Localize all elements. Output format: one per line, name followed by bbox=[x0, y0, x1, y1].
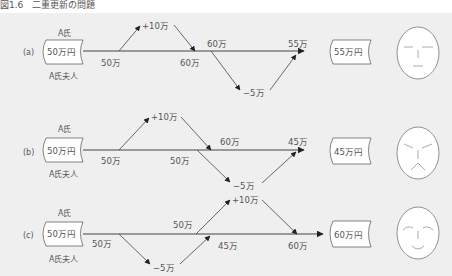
lower-result-value: 55万 bbox=[288, 39, 308, 49]
upper-up-arrow bbox=[119, 118, 149, 150]
start-box-value: 50万円 bbox=[47, 146, 76, 156]
row-label: (b) bbox=[23, 148, 34, 157]
row-label: (a) bbox=[23, 48, 34, 57]
upper-start-value: 50万 bbox=[173, 220, 193, 230]
upper-delta-value: +10万 bbox=[151, 112, 178, 122]
row-b: (b) A氏 A氏夫人 50万円 50万 +10万 60万 50万 −5万 45… bbox=[23, 112, 439, 191]
row-c: (c) A氏 A氏夫人 50万円 50万 −5万 45万 50万 +10万 60… bbox=[23, 195, 439, 273]
lower-delta-value: −5万 bbox=[153, 263, 175, 273]
upper-result-value: 60万 bbox=[220, 137, 240, 147]
owner-bottom-label: A氏夫人 bbox=[49, 169, 78, 179]
owner-top-label: A氏 bbox=[58, 29, 71, 38]
start-box-value: 50万円 bbox=[47, 229, 76, 239]
upper-up-arrow bbox=[196, 200, 230, 234]
lower-result-value: 45万 bbox=[288, 137, 308, 147]
upper-up-arrow bbox=[119, 26, 140, 51]
angry-face-icon bbox=[397, 127, 439, 179]
upper-start-value: 50万 bbox=[101, 156, 121, 166]
upper-result-value: 60万 bbox=[180, 58, 200, 68]
end-box-value: 60万円 bbox=[334, 230, 363, 240]
lower-up-arrow bbox=[262, 152, 296, 183]
owner-bottom-label: A氏夫人 bbox=[49, 254, 78, 264]
double-update-diagram: (a) A氏 A氏夫人 50万円 50万 +10万 60万 60万 −5万 55… bbox=[0, 0, 452, 276]
lower-down-arrow bbox=[197, 150, 230, 182]
upper-down-arrow bbox=[181, 117, 211, 150]
neutral-face-icon bbox=[397, 27, 439, 79]
upper-result-value: 60万 bbox=[288, 241, 308, 251]
lower-start-value: 50万 bbox=[170, 156, 190, 166]
lower-delta-value: −5万 bbox=[243, 88, 265, 98]
start-box-value: 50万円 bbox=[47, 47, 76, 57]
upper-down-arrow bbox=[174, 25, 195, 51]
owner-top-label: A氏 bbox=[58, 125, 71, 134]
lower-start-value: 50万 bbox=[92, 239, 112, 249]
lower-down-arrow bbox=[119, 234, 150, 264]
owner-bottom-label: A氏夫人 bbox=[49, 71, 78, 81]
upper-down-arrow bbox=[262, 200, 297, 234]
row-a: (a) A氏 A氏夫人 50万円 50万 +10万 60万 60万 −5万 55… bbox=[23, 21, 439, 98]
end-box-value: 45万円 bbox=[334, 147, 363, 157]
lower-result-value: 45万 bbox=[218, 241, 238, 251]
upper-start-value: 50万 bbox=[101, 58, 121, 68]
lower-up-arrow bbox=[270, 55, 296, 90]
row-label: (c) bbox=[23, 231, 34, 240]
end-box-value: 55万円 bbox=[334, 47, 363, 57]
lower-delta-value: −5万 bbox=[233, 181, 255, 191]
upper-delta-value: +10万 bbox=[142, 21, 169, 31]
upper-delta-value: +10万 bbox=[232, 195, 259, 205]
lower-down-arrow bbox=[211, 51, 240, 90]
lower-start-value: 60万 bbox=[207, 39, 227, 49]
owner-top-label: A氏 bbox=[58, 209, 71, 218]
lower-up-arrow bbox=[180, 236, 210, 264]
happy-face-icon bbox=[397, 207, 439, 259]
